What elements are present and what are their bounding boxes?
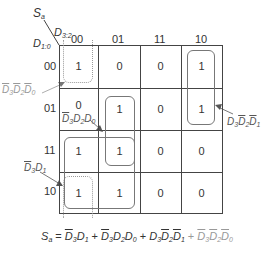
label-not-d3-d1: D3D1 [24, 162, 46, 174]
boolean-equation: Sa = D3D1 + D3D2D0 + D3D2D1 + D3D2D0 [0, 230, 274, 243]
group-loop-d3d2d0-wrap-top [63, 40, 93, 83]
cell-r10-c11: 0 [140, 172, 181, 214]
row-header-01: 01 [44, 102, 56, 114]
col-header-11: 11 [154, 33, 165, 45]
row-header-10: 10 [44, 185, 56, 197]
cell-r11-c10: 0 [181, 130, 222, 172]
grid-line [222, 45, 223, 214]
cell-r10-c10: 0 [181, 172, 222, 214]
cell-r01-c11: 0 [140, 88, 181, 130]
group-loop-d3d1 [64, 137, 135, 209]
cell-r00-c11: 0 [140, 45, 181, 87]
label-not-d3-d2-d0: D3D2D0 [62, 113, 95, 125]
col-header-01: 01 [112, 33, 124, 45]
row-header-00: 00 [44, 60, 56, 72]
col-header-10: 10 [195, 33, 207, 45]
corner-diagonal [44, 20, 59, 45]
row-header-11: 11 [44, 144, 55, 156]
label-not-d3-not-d2-not-d0: D3D2D0 [2, 84, 35, 96]
label-d3-not-d2-not-d1: D3D2D1 [227, 116, 260, 128]
cell-r11-c11: 0 [140, 130, 181, 172]
cell-r00-c01: 0 [99, 45, 140, 87]
group-loop-d3d2d1 [187, 50, 215, 125]
